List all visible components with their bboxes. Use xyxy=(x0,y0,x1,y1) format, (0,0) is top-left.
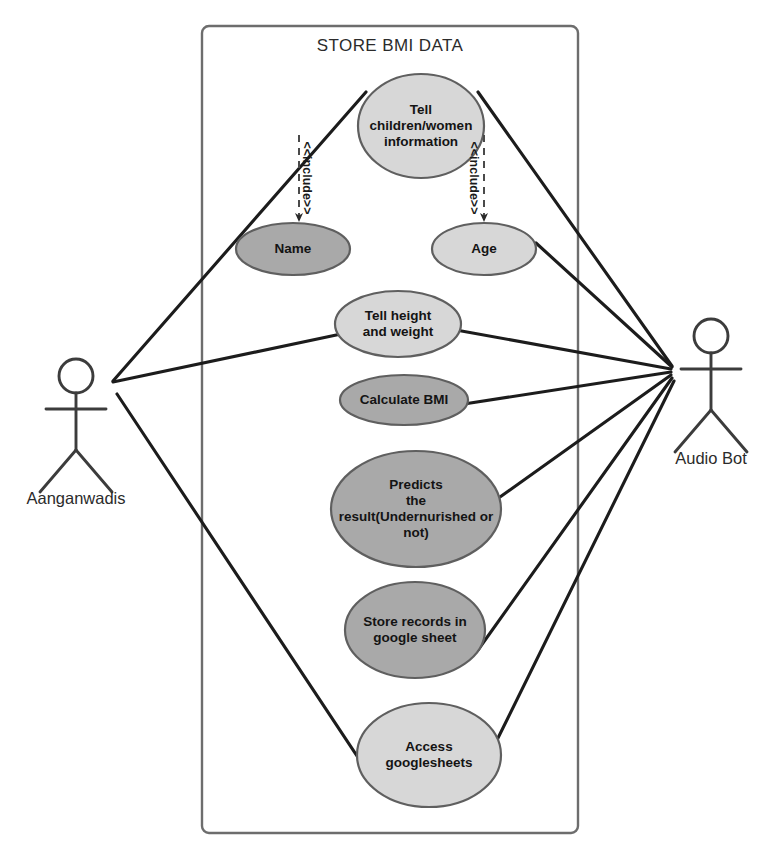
use-case-calculate-bmi[interactable] xyxy=(340,375,468,425)
actor-audio-bot[interactable] xyxy=(675,319,747,452)
actor-aanganwadis[interactable] xyxy=(40,359,112,492)
use-case-name[interactable] xyxy=(236,223,350,275)
use-case-access-googlesheets[interactable] xyxy=(357,703,501,807)
assoc-audiobot-calculate-bmi xyxy=(464,372,671,404)
use-case-store-records[interactable] xyxy=(345,582,485,678)
use-case-predicts-result[interactable] xyxy=(331,451,501,567)
use-case-diagram-canvas: STORE BMI DATA Tell children/women infor… xyxy=(0,0,780,856)
use-case-ellipses-layer xyxy=(236,74,536,807)
use-case-tell-info[interactable] xyxy=(358,74,484,178)
assoc-aanganwadis-access-googlesheets xyxy=(117,394,367,771)
assoc-audiobot-store-records xyxy=(478,378,672,650)
use-case-tell-height-weight[interactable] xyxy=(335,291,461,357)
use-case-age[interactable] xyxy=(432,223,536,275)
diagram-svg xyxy=(0,0,780,856)
